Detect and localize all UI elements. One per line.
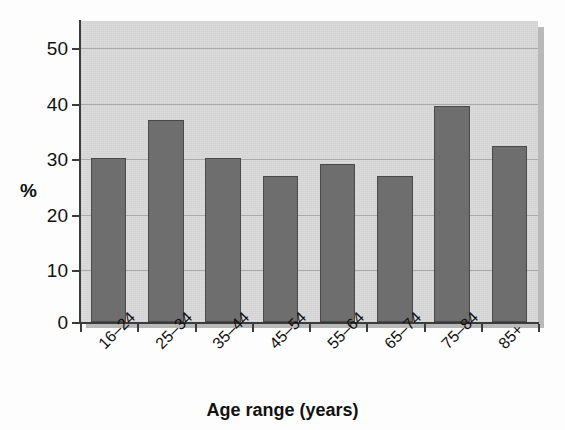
y-tick-mark-0	[72, 322, 80, 324]
bar-16-24[interactable]	[91, 158, 126, 322]
gridline-50	[81, 48, 538, 49]
x-axis-title: Age range (years)	[0, 400, 565, 421]
x-tick-mark-7	[481, 324, 483, 332]
y-tick-label-10: 10	[22, 261, 68, 280]
scan-crop-artifact	[2, 0, 562, 7]
bar-25-34[interactable]	[148, 120, 183, 322]
y-tick-label-50: 50	[22, 39, 68, 58]
y-tick-mark-10	[72, 270, 80, 272]
y-tick-mark-20	[72, 215, 80, 217]
y-tick-label-50-wrap: 50	[22, 39, 68, 59]
bar-chart-figure: 50 40 30 20 10 0 % 16–24 25–34 35–44 45–…	[0, 0, 565, 430]
x-tick-mark-5	[366, 324, 368, 332]
x-tick-mark-6	[424, 324, 426, 332]
y-tick-label-0: 0	[22, 313, 68, 332]
bar-75-84[interactable]	[434, 106, 469, 322]
y-tick-label-40: 40	[22, 95, 68, 114]
y-tick-label-0-wrap: 0	[22, 313, 68, 333]
x-tick-mark-4	[309, 324, 311, 332]
y-axis-line	[79, 20, 81, 324]
bar-65-74[interactable]	[377, 176, 412, 322]
x-tick-mark-3	[252, 324, 254, 332]
y-tick-label-20-wrap: 20	[22, 206, 68, 226]
x-tick-mark-2	[195, 324, 197, 332]
y-tick-label-40-wrap: 40	[22, 95, 68, 115]
y-tick-mark-40	[72, 104, 80, 106]
bar-55-64[interactable]	[320, 164, 355, 322]
bar-45-54[interactable]	[263, 176, 298, 322]
bar-35-44[interactable]	[205, 158, 240, 322]
y-tick-label-20: 20	[22, 206, 68, 225]
y-tick-label-10-wrap: 10	[22, 261, 68, 281]
y-tick-mark-50	[72, 48, 80, 50]
x-tick-mark-1	[137, 324, 139, 332]
bar-85-plus[interactable]	[492, 146, 527, 322]
y-tick-mark-30	[72, 159, 80, 161]
y-tick-label-30-wrap: 30	[22, 150, 68, 170]
y-axis-title: %	[20, 180, 37, 202]
y-tick-label-30: 30	[22, 150, 68, 169]
x-tick-mark-8	[538, 324, 540, 332]
x-tick-mark-0	[80, 324, 82, 332]
